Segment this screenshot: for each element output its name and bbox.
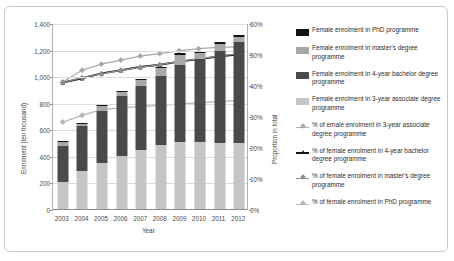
- bar-segment: [77, 123, 88, 124]
- y-tick-mark: [50, 104, 53, 105]
- y-axis-tick: 600: [39, 127, 50, 134]
- legend-item[interactable]: Female enrolment in 4-year bachelor degr…: [296, 70, 446, 87]
- legend-item[interactable]: Female enrolment in master's degree prog…: [296, 44, 446, 61]
- y2-axis-title: Proportion in total: [271, 115, 278, 164]
- y-tick-mark: [50, 24, 53, 25]
- line-marker: [79, 67, 85, 73]
- bar-segment: [97, 163, 108, 210]
- bar-segment: [136, 86, 147, 150]
- bar-segment: [77, 126, 88, 171]
- legend-label: Female enrolment in PhD programme: [312, 26, 419, 35]
- y-tick-mark: [50, 210, 53, 211]
- bar-segment: [155, 68, 166, 75]
- bar-segment: [57, 182, 68, 209]
- y-tick-mark: [50, 77, 53, 78]
- bar-segment: [116, 96, 127, 156]
- bar-segment: [155, 145, 166, 209]
- chart-screenshot: Enrolment (ten thousand) Proportion in t…: [0, 0, 454, 261]
- line-marker: [137, 53, 143, 59]
- y-axis-tick: 1,400: [34, 21, 50, 28]
- x-axis-tick: 2008: [153, 215, 167, 222]
- y-axis-tick: 200: [39, 180, 50, 187]
- legend-item[interactable]: % of emale enrolment in 3-year associate…: [296, 121, 446, 138]
- bar-segment: [136, 80, 147, 87]
- legend-swatch-icon: [296, 72, 309, 79]
- y2-tick-mark: [249, 117, 252, 118]
- legend-swatch-icon: [296, 29, 309, 36]
- x-axis-tick: 2009: [172, 215, 186, 222]
- x-axis-tick: 2010: [192, 215, 206, 222]
- legend-item[interactable]: % of female enrolment in 4-year bachelor…: [296, 147, 446, 164]
- gridline: [53, 24, 247, 25]
- swatch-icon: [296, 47, 309, 54]
- line-marker: [99, 71, 105, 77]
- bar-segment: [195, 59, 206, 142]
- chart-legend: Female enrolment in PhD programmeFemale …: [296, 26, 446, 216]
- bar-segment: [57, 142, 68, 145]
- legend-line-icon: [296, 149, 309, 156]
- legend-label: Female enrolment in master's degree prog…: [312, 44, 446, 61]
- bar-segment: [175, 142, 186, 209]
- bar-segment: [136, 150, 147, 209]
- bar-segment: [195, 53, 206, 59]
- x-axis-tick: 2005: [94, 215, 108, 222]
- swatch-icon: [296, 72, 309, 79]
- plot-area: 02004006008001,0001,2001,4000%10%20%30%4…: [52, 24, 248, 210]
- y-tick-mark: [50, 130, 53, 131]
- bar-segment: [234, 143, 245, 209]
- y2-tick-mark: [249, 24, 252, 25]
- bar-segment: [195, 52, 206, 54]
- legend-line-icon: [296, 201, 309, 208]
- bar-segment: [97, 111, 108, 163]
- bar-segment: [214, 42, 225, 44]
- legend-line-icon: [296, 124, 309, 131]
- x-axis-tick: 2011: [212, 215, 226, 222]
- legend-label: % of female enrolment in master's degree…: [312, 172, 446, 189]
- bar-segment: [195, 142, 206, 209]
- y2-tick-mark: [249, 148, 252, 149]
- bar-segment: [97, 106, 108, 110]
- line-marker: [60, 119, 66, 125]
- line-marker: [118, 57, 124, 63]
- y-tick-mark: [50, 157, 53, 158]
- legend-item[interactable]: Female enrolment in PhD programme: [296, 26, 446, 36]
- x-axis-tick: 2006: [114, 215, 128, 222]
- y-axis-tick: 1,200: [34, 47, 50, 54]
- bar-segment: [175, 65, 186, 142]
- bar-segment: [57, 141, 68, 142]
- legend-item[interactable]: Female enrolment in 3-year associate deg…: [296, 95, 446, 112]
- y2-tick-mark: [249, 179, 252, 180]
- bar-segment: [97, 105, 108, 106]
- y2-tick-mark: [249, 55, 252, 56]
- bar-segment: [234, 35, 245, 37]
- y-tick-mark: [50, 51, 53, 52]
- y-axis-tick: 1,000: [34, 74, 50, 81]
- x-axis-tick: 2004: [74, 215, 88, 222]
- legend-line-icon: [296, 175, 309, 182]
- y-axis-title: Enrolment (ten thousand): [20, 103, 27, 174]
- legend-swatch-icon: [296, 47, 309, 54]
- line-marker: [137, 65, 143, 71]
- legend-swatch-icon: [296, 98, 309, 105]
- bar-segment: [214, 51, 225, 143]
- legend-label: Female enrolment in 4-year bachelor degr…: [312, 70, 446, 87]
- bar-segment: [77, 171, 88, 209]
- y2-tick-mark: [249, 86, 252, 87]
- bar-segment: [155, 67, 166, 68]
- x-axis-tick: 2003: [55, 215, 69, 222]
- line-marker: [79, 112, 85, 118]
- bar-segment: [214, 44, 225, 51]
- bar-segment: [214, 143, 225, 209]
- legend-label: % of female enrolment in PhD programme: [312, 198, 431, 207]
- bar-segment: [77, 124, 88, 127]
- x-axis-tick: 2012: [231, 215, 245, 222]
- bar-segment: [155, 76, 166, 146]
- bar-segment: [116, 156, 127, 209]
- legend-item[interactable]: % of female enrolment in master's degree…: [296, 172, 446, 189]
- legend-label: Female enrolment in 3-year associate deg…: [312, 95, 446, 112]
- bar-segment: [57, 146, 68, 182]
- bar-segment: [234, 37, 245, 42]
- y2-tick-mark: [249, 210, 252, 211]
- legend-item[interactable]: % of female enrolment in PhD programme: [296, 198, 446, 208]
- x-axis-title: Year: [142, 227, 155, 234]
